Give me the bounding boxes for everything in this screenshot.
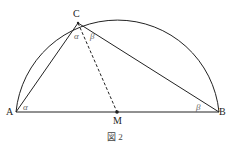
point-C [77, 22, 79, 24]
label-A: A [6, 107, 13, 117]
median-CM [78, 23, 117, 112]
label-M: M [113, 116, 122, 126]
segment-CB [78, 23, 219, 112]
segment-AC [16, 23, 78, 112]
label-C: C [73, 9, 80, 19]
label-B: B [219, 107, 226, 117]
point-M [115, 110, 119, 114]
semicircle-arc [16, 20, 219, 112]
figure-caption: 図 2 [107, 133, 123, 142]
angle-beta-C: β [90, 32, 94, 41]
angle-alpha-A: α [23, 103, 28, 112]
angle-alpha-C: α [74, 32, 79, 41]
semicircle-diagram [0, 0, 227, 154]
angle-beta-B: β [196, 103, 200, 112]
